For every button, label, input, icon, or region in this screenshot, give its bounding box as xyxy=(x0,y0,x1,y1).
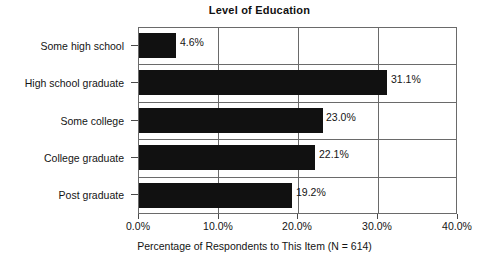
y-tick-mark xyxy=(131,120,138,121)
chart-title: Level of Education xyxy=(0,4,479,16)
y-tick-label-some-college: Some college xyxy=(0,115,124,127)
bar-value-label: 19.2% xyxy=(296,186,326,198)
bar-chart: Level of Education 4.6% 31.1% 23.0% 22.1… xyxy=(0,0,479,267)
bar-row[interactable]: 4.6% xyxy=(138,27,457,64)
x-tick-label-20: 20.0% xyxy=(267,220,327,232)
y-tick-mark xyxy=(131,194,138,195)
y-tick-label-high-school-graduate: High school graduate xyxy=(0,77,124,89)
x-tick-mark xyxy=(138,214,139,219)
bar-post-graduate[interactable] xyxy=(139,183,292,208)
y-tick-label-some-high-school: Some high school xyxy=(0,40,124,52)
x-tick-label-10: 10.0% xyxy=(188,220,248,232)
bar-row[interactable]: 31.1% xyxy=(138,64,457,101)
x-tick-mark xyxy=(377,214,378,219)
x-tick-mark xyxy=(457,214,458,219)
bar-row[interactable]: 23.0% xyxy=(138,102,457,139)
y-tick-mark xyxy=(131,82,138,83)
x-tick-mark xyxy=(218,214,219,219)
x-axis-title: Percentage of Respondents to This Item (… xyxy=(0,240,479,252)
y-tick-label-post-graduate: Post graduate xyxy=(0,189,124,201)
bar-some-college[interactable] xyxy=(139,108,323,133)
bar-some-high-school[interactable] xyxy=(139,33,176,58)
bar-value-label: 22.1% xyxy=(319,148,349,160)
x-tick-label-40: 40.0% xyxy=(427,220,479,232)
y-tick-label-college-graduate: College graduate xyxy=(0,152,124,164)
bar-rows: 4.6% 31.1% 23.0% 22.1% 19.2% xyxy=(138,27,457,214)
bar-high-school-graduate[interactable] xyxy=(139,70,387,95)
x-tick-mark xyxy=(297,214,298,219)
x-tick-label-30: 30.0% xyxy=(347,220,407,232)
y-tick-mark xyxy=(131,157,138,158)
bar-row[interactable]: 22.1% xyxy=(138,139,457,176)
x-tick-label-0: 0.0% xyxy=(108,220,168,232)
bar-value-label: 4.6% xyxy=(180,36,204,48)
bar-college-graduate[interactable] xyxy=(139,145,315,170)
bar-value-label: 31.1% xyxy=(391,73,421,85)
bar-value-label: 23.0% xyxy=(326,111,356,123)
bar-row[interactable]: 19.2% xyxy=(138,177,457,214)
y-tick-mark xyxy=(131,45,138,46)
